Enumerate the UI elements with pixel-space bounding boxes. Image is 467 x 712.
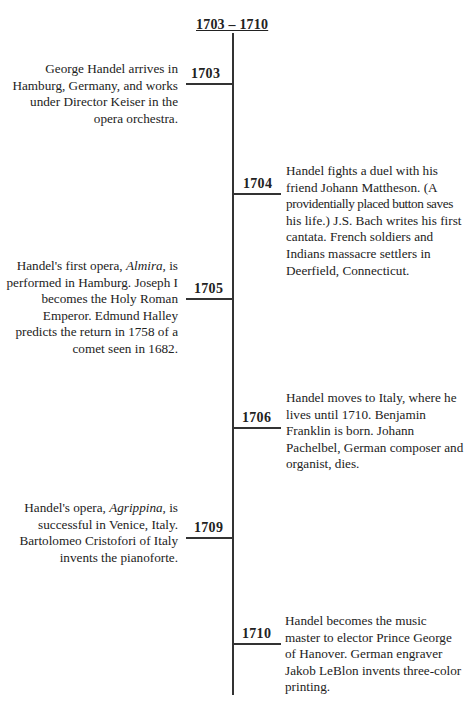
text-span: Handel's opera, <box>24 500 109 515</box>
text-line: friend Johann Mattheson. (A <box>286 180 467 197</box>
timeline-title: 1703 – 1710 <box>196 17 268 33</box>
year-label-1704: 1704 <box>243 176 272 192</box>
text-line: printing. <box>285 679 467 696</box>
event-1706-description: Handel moves to Italy, where he lives un… <box>286 390 467 473</box>
text-line: Pachelbel, German composer and <box>286 440 467 457</box>
event-1710-description: Handel becomes the music master to elect… <box>285 613 467 696</box>
timeline-axis <box>232 33 234 695</box>
text-line: Jakob LeBlon invents three-color <box>285 663 467 680</box>
year-label-1703: 1703 <box>191 66 220 82</box>
year-label-1706: 1706 <box>242 410 271 426</box>
text-line: successful in Venice, Italy. <box>0 517 178 534</box>
year-label-1705: 1705 <box>194 281 223 297</box>
year-label-1710: 1710 <box>242 626 271 642</box>
text-line: Hamburg, Germany, and works <box>0 78 178 95</box>
text-line: Deerfield, Connecticut. <box>286 263 467 280</box>
event-1709-description: Handel's opera, Agrippina, is successful… <box>0 500 178 566</box>
text-span: , is <box>163 258 178 273</box>
tick-1706 <box>233 427 281 429</box>
text-line: providentially placed button saves <box>286 196 467 213</box>
text-line: his life.) J.S. Bach writes his first <box>286 213 467 230</box>
tick-1703 <box>186 83 234 85</box>
text-line: Emperor. Edmund Halley <box>0 308 178 325</box>
opera-title: Almira <box>126 258 163 273</box>
text-line: comet seen in 1682. <box>0 341 178 358</box>
text-line: Franklin is born. Johann <box>286 423 467 440</box>
text-line: under Director Keiser in the <box>0 94 178 111</box>
text-line: of Hanover. German engraver <box>285 646 467 663</box>
text-line: Handel's opera, Agrippina, is <box>0 500 178 517</box>
tick-1710 <box>233 643 281 645</box>
text-line: Handel's first opera, Almira, is <box>0 258 178 275</box>
text-line: opera orchestra. <box>0 111 178 128</box>
text-line: invents the pianoforte. <box>0 550 178 567</box>
text-line: Bartolomeo Cristofori of Italy <box>0 533 178 550</box>
opera-title: Agrippina <box>109 500 162 515</box>
event-1705-description: Handel's first opera, Almira, is perform… <box>0 258 178 358</box>
tick-1704 <box>233 193 281 195</box>
tick-1705 <box>186 298 234 300</box>
text-line: Indians massacre settlers in <box>286 246 467 263</box>
text-line: lives until 1710. Benjamin <box>286 407 467 424</box>
text-line: performed in Hamburg. Joseph I <box>0 275 178 292</box>
text-span: Handel's first opera, <box>17 258 126 273</box>
text-line: George Handel arrives in <box>0 61 178 78</box>
text-line: predicts the return in 1758 of a <box>0 324 178 341</box>
text-line: Handel becomes the music <box>285 613 467 630</box>
text-line: Handel fights a duel with his <box>286 163 467 180</box>
text-line: becomes the Holy Roman <box>0 291 178 308</box>
text-line: cantata. French soldiers and <box>286 229 467 246</box>
event-1703-description: George Handel arrives in Hamburg, German… <box>0 61 178 127</box>
event-1704-description: Handel fights a duel with his friend Joh… <box>286 163 467 279</box>
text-line: master to elector Prince George <box>285 630 467 647</box>
year-label-1709: 1709 <box>194 520 223 536</box>
tick-1709 <box>186 537 234 539</box>
text-line: organist, dies. <box>286 456 467 473</box>
text-line: Handel moves to Italy, where he <box>286 390 467 407</box>
text-span: , is <box>163 500 178 515</box>
